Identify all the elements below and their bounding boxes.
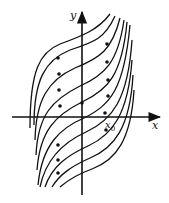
arrow-marker [106, 94, 110, 98]
phase-portrait-diagram [0, 0, 169, 203]
trajectory-1 [34, 16, 115, 125]
trajectory-9 [60, 90, 134, 187]
trajectory-arrows [56, 42, 110, 175]
arrow-marker [56, 56, 60, 60]
trajectory-6 [40, 40, 132, 187]
arrow-marker [56, 158, 60, 162]
arrow-marker [57, 88, 61, 92]
arrow-marker [103, 111, 107, 115]
arrow-marker [105, 42, 109, 46]
arrow-marker [56, 143, 60, 147]
y-axis-label: y [70, 10, 76, 21]
arrow-marker [105, 60, 109, 64]
arrow-marker [57, 72, 61, 76]
arrow-marker [58, 104, 62, 108]
arrow-marker [106, 78, 110, 82]
trajectory-8 [52, 75, 133, 187]
x0-subscript: 0 [111, 125, 115, 133]
arrow-marker [56, 171, 60, 175]
x0-point-label: x0 [105, 120, 115, 133]
arrow-marker [80, 101, 84, 105]
x-axis-label: x [152, 120, 158, 131]
